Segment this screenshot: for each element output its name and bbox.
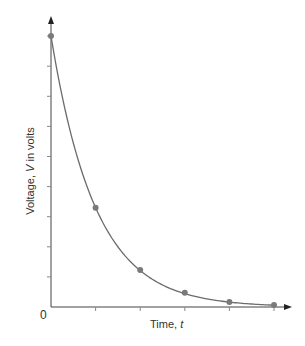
data-point <box>271 302 277 308</box>
x-axis-arrow-icon <box>284 304 292 310</box>
y-axis-arrow-icon <box>48 16 54 24</box>
origin-label: 0 <box>40 308 47 322</box>
y-axis-label: Voltage, V in volts <box>24 81 36 261</box>
chart-plot <box>0 0 305 346</box>
data-point <box>137 267 143 273</box>
data-point <box>182 290 188 296</box>
decay-curve <box>51 36 276 305</box>
x-axis-label: Time, t <box>150 318 183 330</box>
data-point <box>93 205 99 211</box>
data-point <box>226 299 232 305</box>
data-point <box>48 33 54 39</box>
